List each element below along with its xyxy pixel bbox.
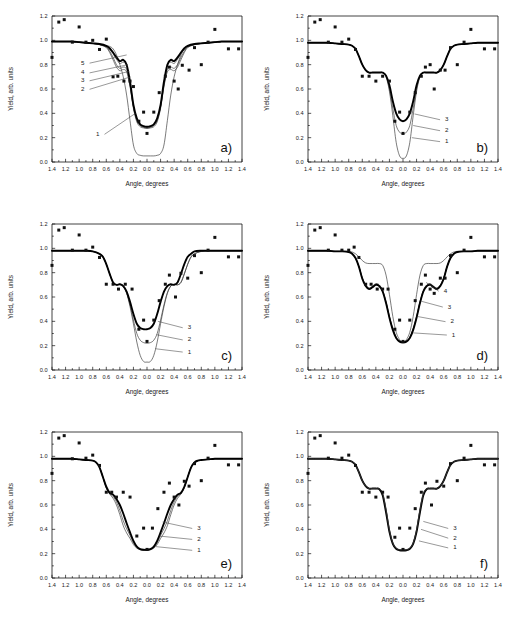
data-point — [132, 85, 135, 88]
curve-label-3: 3 — [197, 524, 201, 531]
x-tick-label: 0.0 — [399, 166, 407, 172]
x-tick-label: 0.4 — [372, 166, 380, 172]
data-point — [124, 283, 127, 286]
data-point — [376, 288, 379, 291]
data-point — [63, 226, 66, 229]
y-tick-label: 0.6 — [296, 294, 304, 300]
data-points — [51, 18, 241, 135]
x-tick-label: 0.8 — [345, 374, 353, 380]
x-tick-label: 0.2 — [386, 166, 394, 172]
panel-d: 1.41.21.00.80.60.40.20.00.20.40.60.81.01… — [256, 208, 512, 416]
panel-f: 1.41.21.00.80.60.40.20.00.20.40.60.81.01… — [256, 416, 512, 624]
y-tick-label: 1.2 — [296, 221, 304, 227]
x-axis-title: Angle, degrees — [382, 180, 425, 188]
x-tick-label: 0.8 — [197, 374, 205, 380]
data-point — [158, 299, 161, 302]
y-tick-label: 1.0 — [40, 453, 48, 459]
data-point — [402, 340, 405, 343]
curve-2 — [52, 459, 242, 550]
curve-callouts: 321 — [419, 521, 457, 550]
y-tick-label: 0.0 — [40, 575, 48, 581]
data-point — [183, 480, 186, 483]
x-tick-label: 1.4 — [494, 374, 502, 380]
x-tick-label: 0.8 — [453, 374, 461, 380]
data-points — [51, 434, 241, 551]
data-point — [387, 496, 390, 499]
data-point — [408, 527, 411, 530]
data-point — [164, 75, 167, 78]
curve-label-2: 2 — [197, 535, 201, 542]
data-point — [469, 28, 472, 31]
data-point — [129, 496, 132, 499]
data-points — [51, 226, 241, 343]
data-point — [51, 472, 54, 475]
x-tick-label: 1.0 — [211, 166, 219, 172]
curve-label-3: 3 — [81, 76, 85, 83]
data-point — [213, 236, 216, 239]
data-point — [398, 527, 401, 530]
data-point — [110, 491, 113, 494]
data-point — [200, 479, 203, 482]
x-tick-label: 1.2 — [62, 166, 70, 172]
x-tick-label: 0.4 — [426, 166, 434, 172]
y-tick-label: 0.8 — [40, 62, 48, 68]
data-point — [71, 41, 74, 44]
x-tick-label: 0.6 — [184, 374, 192, 380]
leader-line — [156, 547, 192, 551]
leader-line — [415, 114, 441, 120]
leader-line — [412, 138, 440, 142]
x-tick-label: 1.0 — [211, 582, 219, 588]
data-point — [51, 264, 54, 267]
y-tick-label: 0.8 — [296, 62, 304, 68]
curve-1 — [308, 251, 498, 343]
data-point — [456, 271, 459, 274]
curves — [308, 43, 498, 159]
y-tick-label: 0.6 — [296, 502, 304, 508]
panel-c: 1.41.21.00.80.60.40.20.00.20.40.60.81.01… — [0, 208, 256, 416]
data-point — [174, 296, 177, 299]
y-tick-label: 0.0 — [296, 575, 304, 581]
data-point — [51, 56, 54, 59]
x-tick-label: 1.2 — [62, 582, 70, 588]
data-point — [213, 28, 216, 31]
leader-line — [426, 282, 439, 291]
figure-root: 1.41.21.00.80.60.40.20.00.20.40.60.81.01… — [0, 0, 513, 626]
curve-label-1: 1 — [188, 348, 192, 355]
x-tick-label: 1.4 — [48, 582, 56, 588]
data-point — [213, 444, 216, 447]
y-axis-title: Yield, arb. units — [7, 67, 14, 111]
data-point — [200, 271, 203, 274]
x-tick-label: 1.0 — [331, 582, 339, 588]
data-point — [105, 283, 108, 286]
x-tick-label: 0.4 — [426, 374, 434, 380]
data-point — [122, 491, 125, 494]
data-point — [307, 56, 310, 59]
data-point — [424, 274, 427, 277]
data-point — [354, 464, 357, 467]
curve-callouts: 4321 — [413, 282, 456, 337]
data-point — [151, 527, 154, 530]
data-point — [340, 41, 343, 44]
curve-label-2: 2 — [453, 534, 457, 541]
data-point — [237, 47, 240, 50]
data-point — [122, 80, 125, 83]
data-point — [402, 132, 405, 135]
y-tick-label: 0.4 — [296, 526, 304, 532]
data-point — [381, 75, 384, 78]
data-point — [368, 491, 371, 494]
x-tick-label: 1.4 — [48, 166, 56, 172]
data-point — [98, 48, 101, 51]
x-tick-label: 1.0 — [331, 374, 339, 380]
data-points — [307, 226, 497, 343]
data-point — [181, 64, 184, 67]
data-point — [354, 48, 357, 51]
data-point — [414, 299, 417, 302]
data-point — [91, 454, 94, 457]
data-point — [146, 548, 149, 551]
data-point — [173, 496, 176, 499]
data-point — [188, 485, 191, 488]
y-axis-ticks: 0.00.20.40.60.81.01.2 — [40, 221, 55, 373]
panel-label: b) — [476, 140, 488, 155]
data-point — [388, 80, 391, 83]
y-axis-ticks: 0.00.20.40.60.81.01.2 — [296, 13, 311, 165]
